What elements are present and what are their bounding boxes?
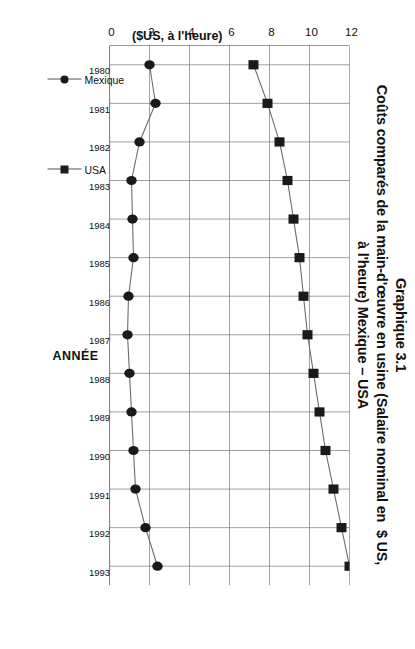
- circle-marker-icon: [47, 73, 81, 85]
- legend-item-mexique: Mexique: [47, 73, 124, 85]
- y-tick-6: 6: [221, 25, 241, 37]
- chart-svg: [109, 45, 349, 585]
- x-tick-1988: 1988: [82, 373, 116, 384]
- legend-item-usa: USA: [47, 163, 106, 175]
- x-tick-1990: 1990: [82, 450, 116, 461]
- x-tick-1986: 1986: [82, 296, 116, 307]
- x-tick-1989: 1989: [82, 411, 116, 422]
- legend-label: USA: [84, 163, 106, 175]
- plot-area: [109, 45, 349, 585]
- square-marker-icon: [47, 163, 81, 175]
- figure-title: Graphique 3.1 Coûts comparés de la main-…: [352, 0, 409, 649]
- x-tick-1982: 1982: [82, 141, 116, 152]
- legend-label: Mexique: [84, 73, 124, 85]
- x-tick-1987: 1987: [82, 334, 116, 345]
- figure-title-line-3: à l'heure) Mexique – USA: [352, 0, 371, 649]
- x-tick-1992: 1992: [82, 527, 116, 538]
- x-tick-1985: 1985: [82, 257, 116, 268]
- x-tick-1991: 1991: [82, 489, 116, 500]
- x-tick-1993: 1993: [82, 566, 116, 577]
- figure-stage: Graphique 3.1 Coûts comparés de la main-…: [0, 0, 415, 649]
- y-tick-10: 10: [301, 25, 321, 37]
- figure-title-line-2: Coûts comparés de la main-d'œuvre en usi…: [371, 0, 390, 649]
- x-tick-1983: 1983: [82, 180, 116, 191]
- y-tick-0: 0: [101, 25, 121, 37]
- x-tick-1984: 1984: [82, 219, 116, 230]
- plot-canvas: [109, 45, 349, 585]
- figure-title-line-1: Graphique 3.1: [390, 0, 409, 649]
- y-tick-12: 12: [341, 25, 361, 37]
- y-axis-title: ($US, à l'heure): [132, 28, 223, 42]
- x-tick-1981: 1981: [82, 103, 116, 114]
- y-tick-8: 8: [261, 25, 281, 37]
- x-axis-title: ANNÉE: [52, 349, 98, 363]
